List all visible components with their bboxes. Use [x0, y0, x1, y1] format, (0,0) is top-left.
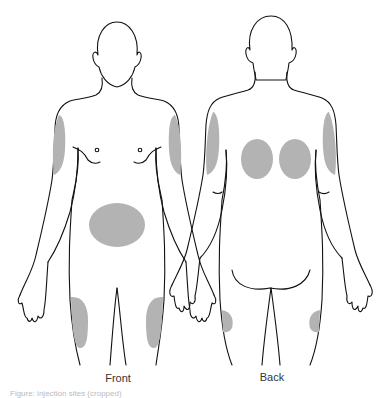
back-right-arm-site: [323, 112, 336, 175]
back-left-arm-site: [206, 112, 219, 175]
front-left-thigh-site: [71, 297, 88, 348]
back-left-thigh-site: [222, 310, 233, 332]
front-left-arm-site: [53, 115, 65, 175]
back-figure: [170, 16, 372, 365]
front-abdomen-site: [89, 203, 145, 247]
figure-caption: Figure: injection sites (cropped): [10, 389, 122, 398]
back-view-label: Back: [232, 371, 312, 383]
front-right-thigh-site: [146, 297, 163, 348]
front-right-arm-site: [169, 115, 181, 175]
back-left-flank-site: [241, 139, 273, 179]
back-right-thigh-site: [309, 310, 320, 332]
front-view-label: Front: [78, 372, 158, 384]
front-figure: [18, 22, 215, 365]
back-right-flank-site: [279, 139, 311, 179]
